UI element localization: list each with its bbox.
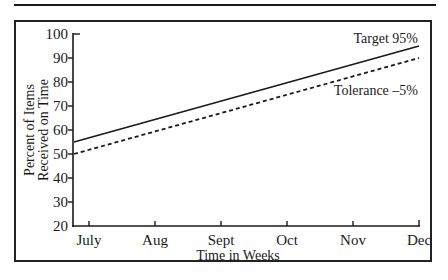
svg-text:Percent of Items: Percent of Items	[22, 84, 37, 176]
svg-text:60: 60	[53, 122, 68, 138]
chart: 100 90 80 70 60 50 40 30 20 July Aug Sep…	[0, 0, 448, 280]
svg-text:80: 80	[53, 74, 68, 90]
y-axis	[68, 33, 80, 227]
svg-text:Aug: Aug	[142, 232, 168, 248]
tolerance-annotation: Tolerance –5%	[334, 83, 418, 98]
x-tick-labels: July Aug Sept Oct Nov Dec	[76, 232, 431, 248]
svg-text:90: 90	[53, 50, 68, 66]
svg-text:Nov: Nov	[340, 232, 366, 248]
svg-text:70: 70	[53, 98, 68, 114]
svg-text:July: July	[76, 232, 102, 248]
svg-text:30: 30	[53, 194, 68, 210]
x-axis-title: Time in Weeks	[196, 248, 280, 263]
svg-text:20: 20	[53, 218, 68, 234]
svg-text:Dec: Dec	[407, 232, 431, 248]
svg-text:Oct: Oct	[276, 232, 298, 248]
svg-text:50: 50	[53, 146, 68, 162]
svg-text:100: 100	[46, 26, 69, 42]
svg-text:Sept: Sept	[208, 232, 236, 248]
svg-text:40: 40	[53, 170, 68, 186]
y-axis-title: Percent of Items Received on Time	[22, 79, 51, 181]
x-axis	[72, 220, 420, 226]
svg-text:Received on Time: Received on Time	[36, 79, 51, 181]
target-annotation: Target 95%	[354, 31, 419, 46]
tolerance-line	[74, 58, 419, 154]
